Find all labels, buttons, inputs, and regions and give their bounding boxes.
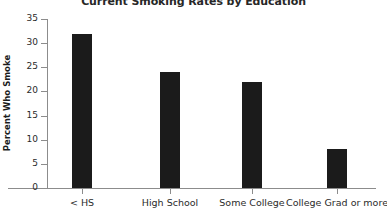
x-tick-label: < HS: [70, 198, 94, 208]
x-tick-label: High School: [142, 198, 198, 208]
bar: [160, 72, 180, 188]
x-tick-label: Some College: [219, 198, 284, 208]
x-tick-mark: [337, 189, 338, 194]
x-tick-mark: [82, 189, 83, 194]
x-tick-label: College Grad or more: [286, 198, 387, 208]
bar: [72, 34, 92, 189]
x-tick-mark: [170, 189, 171, 194]
bars-group: [0, 0, 387, 188]
bar-chart: Current Smoking Rates by Education Perce…: [0, 0, 387, 214]
bar: [327, 149, 347, 188]
x-tick-mark: [252, 189, 253, 194]
x-axis-line: [8, 188, 376, 189]
y-tick-mark: [41, 188, 47, 189]
bar: [242, 82, 262, 188]
